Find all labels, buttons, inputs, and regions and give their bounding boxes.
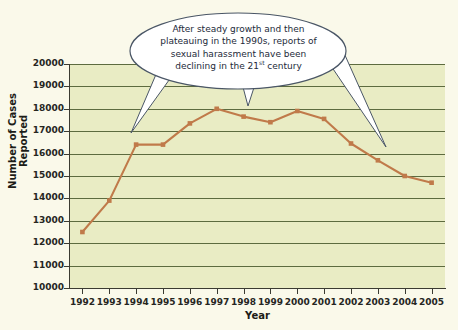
gridline (69, 109, 445, 110)
x-axis-title: Year (69, 310, 446, 321)
y-axis-title: Number of Cases Reported (7, 71, 29, 211)
x-tick-mark (163, 289, 164, 294)
x-tick-mark (378, 289, 379, 294)
y-tick-mark (64, 154, 69, 155)
y-tick-mark (64, 266, 69, 267)
y-tick-mark (64, 221, 69, 222)
callout-line-2: plateauing in the 1990s, reports of (160, 36, 317, 46)
gridline (69, 131, 445, 132)
y-tick-label-text: 20000 (24, 59, 64, 68)
x-tick-mark (136, 289, 137, 294)
y-tick-label-text: 12000 (24, 238, 64, 247)
x-tick-mark (82, 289, 83, 294)
x-tick-mark (324, 289, 325, 294)
y-tick-label-text: 18000 (24, 104, 64, 113)
y-tick-mark (64, 243, 69, 244)
gridline (69, 221, 445, 222)
x-tick-label: 2005 (414, 297, 450, 307)
y-tick-label: 11000 (18, 261, 64, 270)
y-tick-mark (64, 288, 69, 289)
y-tick-mark (64, 109, 69, 110)
y-tick-mark (64, 64, 69, 65)
y-tick-label-text: 17000 (24, 126, 64, 135)
gridline (69, 154, 445, 155)
gridline (69, 198, 445, 199)
y-tick-label-text: 13000 (24, 216, 64, 225)
x-tick-mark (190, 289, 191, 294)
x-tick-mark (217, 289, 218, 294)
callout-line-4-a: declining in the 21 (175, 61, 259, 71)
y-tick-label-text: 19000 (24, 81, 64, 90)
y-tick-label-text: 16000 (24, 149, 64, 158)
x-tick-mark (270, 289, 271, 294)
gridline (69, 243, 445, 244)
callout-text: After steady growth and then plateauing … (146, 23, 331, 73)
callout-line-3: sexual harassment have been (171, 49, 307, 59)
y-tick-label: 12000 (18, 238, 64, 247)
callout-line-4-b: century (265, 61, 302, 71)
plot-area (69, 64, 445, 288)
y-tick-label-text: 15000 (24, 171, 64, 180)
y-tick-mark (64, 176, 69, 177)
y-tick-label: 20000 (18, 59, 64, 68)
x-tick-mark (432, 289, 433, 294)
callout-line-1: After steady growth and then (172, 24, 304, 34)
x-tick-mark (297, 289, 298, 294)
chart-figure: 1000011000120001300014000150001600017000… (0, 0, 458, 330)
gridline (69, 176, 445, 177)
y-tick-label-text: 10000 (24, 283, 64, 292)
gridline (69, 86, 445, 87)
x-tick-mark (109, 289, 110, 294)
x-axis-line (69, 288, 446, 289)
y-tick-label-text: 14000 (24, 193, 64, 202)
x-tick-mark (351, 289, 352, 294)
x-tick-mark (244, 289, 245, 294)
x-tick-mark (405, 289, 406, 294)
y-tick-label: 13000 (18, 216, 64, 225)
y-tick-label-text: 11000 (24, 261, 64, 270)
y-tick-mark (64, 131, 69, 132)
y-axis-line (69, 64, 70, 289)
gridline (69, 266, 445, 267)
y-tick-mark (64, 198, 69, 199)
y-tick-mark (64, 86, 69, 87)
y-tick-label: 10000 (18, 283, 64, 292)
